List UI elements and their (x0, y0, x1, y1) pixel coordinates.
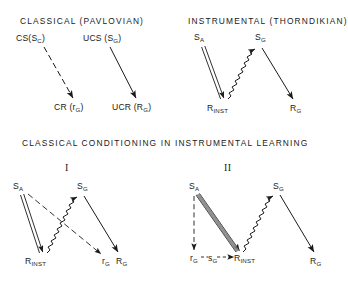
node-cr-close: ) (80, 102, 83, 112)
arrow-sa-to-rinst-inner (205, 46, 224, 98)
p2-node-rg-subscript: G (316, 260, 321, 267)
p2-band-sa-to-rinst (196, 194, 240, 253)
node-ucs-text: UCS (S (83, 33, 113, 43)
node-instrumental-rg: RG (290, 104, 301, 113)
p1-node-rinst: RINST (25, 257, 46, 266)
p2-node-rg-small-subscript: G (193, 257, 198, 264)
node-ucr-subscript: G (143, 106, 148, 113)
panel-numeral-two: II (224, 163, 232, 173)
p2-node-sg-subscript: G (279, 185, 284, 192)
p2-node-rg: RG (310, 257, 321, 266)
node-instrumental-rinst-subscript: INST (213, 107, 228, 114)
section-title-classical-conditioning: CLASSICAL CONDITIONING IN INSTRUMENTAL L… (22, 139, 308, 147)
p1-node-sa-subscript: A (19, 185, 23, 192)
p2-arrow-sg-to-rg (280, 195, 314, 252)
panel-classical-arrows (44, 47, 136, 98)
p2-node-sa: SA (189, 182, 199, 191)
node-cr: CR (rG) (54, 103, 84, 112)
node-cs: CS(SC) (16, 34, 45, 43)
p1-node-rg-small-subscript: G (105, 260, 110, 267)
p1-arrow-sa-to-rg-small (28, 194, 101, 254)
p1-arrow-sa-to-rinst-outer (21, 195, 40, 253)
node-instrumental-sa-subscript: A (200, 36, 204, 43)
p1-node-rg-subscript: G (122, 260, 127, 267)
node-instrumental-rinst: RINST (207, 104, 228, 113)
panel-one-arrows: r_G dashed (crosses the wavy) --> (21, 194, 119, 254)
node-ucs-subscript: G (113, 37, 118, 44)
node-ucr: UCR (RG) (112, 103, 151, 112)
p2-node-rg-small: rG (190, 254, 198, 263)
arrow-ucs-to-ucr (110, 47, 136, 98)
p2-node-rinst-subscript: INST (240, 257, 255, 264)
node-instrumental-rg-subscript: G (296, 107, 301, 114)
node-cs-text: CS(S (16, 33, 37, 43)
node-cs-close: ) (42, 33, 45, 43)
p2-node-sa-subscript: A (195, 185, 199, 192)
node-ucr-close: ) (148, 102, 151, 112)
panel-numeral-one: I (65, 163, 69, 173)
node-ucs-close: ) (118, 33, 121, 43)
p1-node-sa: SA (13, 182, 23, 191)
panel-title-classical: CLASSICAL (PAVLOVIAN) (20, 17, 144, 25)
node-instrumental-sg: SG (255, 33, 266, 42)
p1-node-sg: SG (77, 182, 88, 191)
wavy-rinst-to-sg (228, 49, 255, 99)
arrow-cs-to-cr (44, 47, 73, 98)
p1-node-rg: RG (116, 257, 127, 266)
p2-wavy-rinst-to-sg (243, 196, 273, 252)
arrow-sg-to-rg (262, 48, 293, 99)
p2-node-rinst: RINST (234, 254, 255, 263)
p1-node-sg-subscript: G (83, 185, 88, 192)
arrow-sa-to-rinst-outer (202, 47, 221, 99)
p1-wavy-rinst-to-sg (47, 197, 77, 253)
panel-title-instrumental: INSTRUMENTAL (THORNDIKIAN) (188, 17, 348, 25)
panel-two-arrows: r_G vertical dashed --> R_INST dashed ar… (194, 194, 314, 258)
p1-node-rg-small: rG (102, 257, 110, 266)
p2-node-sg: SG (273, 182, 284, 191)
p2-node-sg-small: sG (208, 254, 217, 263)
p1-node-rinst-subscript: INST (31, 260, 46, 267)
node-cs-subscript: C (37, 37, 42, 44)
node-instrumental-sa: SA (194, 33, 204, 42)
node-ucs: UCS (SG) (83, 34, 121, 43)
panel-instrumental-arrows (202, 46, 293, 99)
p2-node-sg-small-text: s (208, 253, 213, 263)
p1-arrow-sg-to-rg (84, 196, 118, 252)
node-instrumental-sg-subscript: G (261, 36, 266, 43)
p1-arrow-sa-to-rinst-inner (24, 194, 43, 252)
node-cr-text: CR (r (54, 102, 76, 112)
node-cr-subscript: G (76, 106, 81, 113)
node-ucr-text: UCR (R (112, 102, 143, 112)
p2-node-sg-small-subscript: G (213, 257, 218, 264)
